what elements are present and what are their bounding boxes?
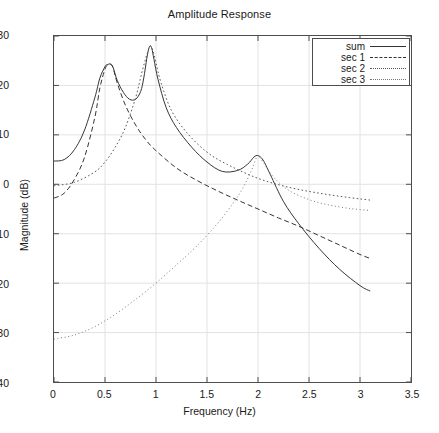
legend-item-sec3: sec 3: [313, 74, 406, 85]
x-tick-label: 1: [136, 388, 176, 400]
legend-item-sec1: sec 1: [313, 52, 406, 63]
x-tick-label: 2: [238, 388, 278, 400]
x-axis-label: Frequency (Hz): [0, 405, 439, 417]
plot-svg: [54, 36, 411, 382]
chart-figure: Amplitude Response 3020100-10-20-30-40 0…: [0, 0, 439, 433]
x-tick-label: 3.5: [392, 388, 432, 400]
legend-swatch-sum: [370, 46, 406, 48]
legend-label-sum: sum: [346, 41, 365, 52]
x-tick-label: 0.5: [84, 388, 124, 400]
x-tick-label: 3: [341, 388, 381, 400]
series-line-sec-3: [54, 155, 370, 339]
x-tick-label: 2.5: [289, 388, 329, 400]
y-axis-label: Magnitude (dB): [18, 145, 30, 285]
chart-legend: sum sec 1 sec 2 sec 3: [312, 38, 410, 86]
x-tick-label: 1.5: [187, 388, 227, 400]
legend-item-sec2: sec 2: [313, 63, 406, 74]
legend-label-sec2: sec 2: [341, 63, 365, 74]
series-line-sec-1: [54, 64, 370, 259]
legend-label-sec1: sec 1: [341, 52, 365, 63]
legend-item-sum: sum: [313, 41, 406, 52]
legend-swatch-sec3: [370, 79, 406, 81]
x-tick-label: 0: [33, 388, 73, 400]
legend-swatch-sec1: [370, 57, 406, 59]
plot-area: [53, 35, 412, 383]
legend-swatch-sec2: [370, 68, 406, 70]
legend-label-sec3: sec 3: [341, 74, 365, 85]
